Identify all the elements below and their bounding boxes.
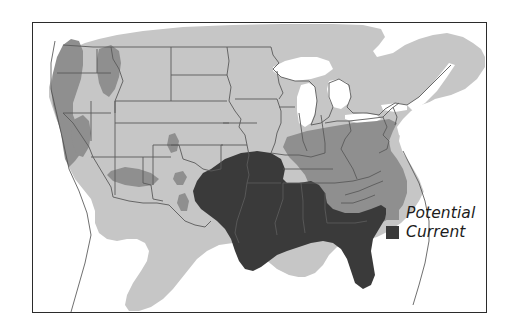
legend-label-current: Current (406, 224, 466, 241)
legend-label-potential: Potential (406, 205, 475, 222)
legend-swatch-potential-icon (386, 207, 399, 220)
legend-item-potential: Potential (386, 204, 482, 223)
distribution-map-figure: Potential Current (0, 0, 513, 333)
us-range-map (33, 23, 486, 312)
legend-item-current: Current (386, 223, 482, 242)
map-frame (32, 22, 487, 313)
legend-swatch-current-icon (386, 226, 399, 239)
map-legend: Potential Current (386, 204, 482, 242)
